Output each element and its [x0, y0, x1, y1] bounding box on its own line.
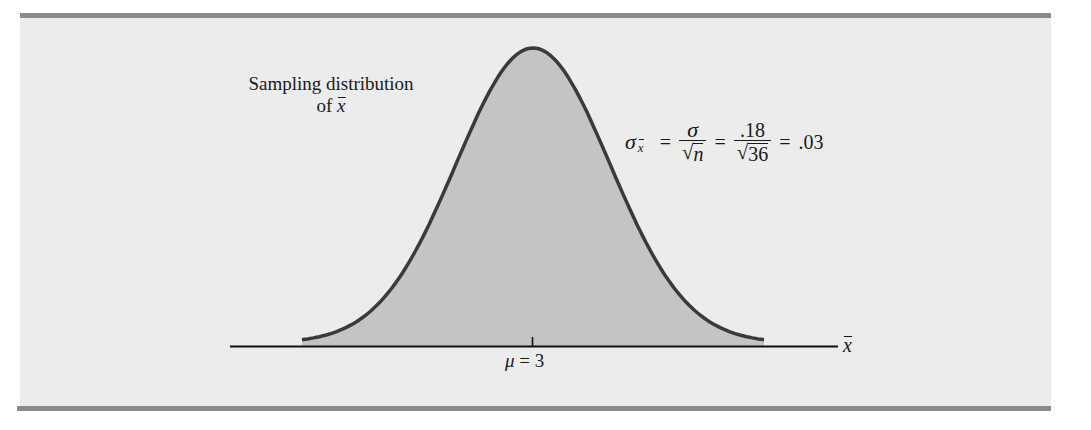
formula-result: .03 [799, 131, 824, 153]
distribution-label: Sampling distribution of x [236, 73, 426, 117]
square-root-icon: √ [737, 141, 749, 163]
equals-sign: = [714, 131, 725, 153]
equals-sign: = [779, 131, 790, 153]
fraction-sigma-over-root-n: σ √n [679, 120, 707, 164]
x-bar-subscript: x [638, 137, 644, 159]
distribution-label-line2: of x [236, 95, 426, 117]
equals-sign: = [660, 131, 671, 153]
radicand: n [693, 143, 703, 164]
standard-error-formula: σ x = σ √n = .18 √36 = .03 [625, 120, 824, 164]
fraction-numerator: σ [684, 120, 701, 140]
distribution-label-prefix: of [316, 95, 337, 116]
radicand: 36 [748, 143, 768, 164]
normal-curve-plot [0, 0, 1091, 430]
mean-value: = 3 [515, 350, 545, 371]
fraction-denominator: √36 [734, 140, 772, 164]
mu-symbol: μ [505, 350, 515, 371]
square-root-icon: √ [682, 141, 694, 163]
x-axis-label: x [843, 334, 852, 356]
x-bar-symbol: x [843, 334, 852, 356]
distribution-label-line1: Sampling distribution [236, 73, 426, 95]
fraction-denominator: √n [679, 140, 707, 164]
sigma-symbol: σ [625, 131, 636, 153]
fraction-numerator: .18 [737, 120, 768, 140]
fraction-value: .18 √36 [734, 120, 772, 164]
mean-tick-label: μ = 3 [505, 350, 544, 372]
x-bar-symbol: x [337, 95, 345, 117]
